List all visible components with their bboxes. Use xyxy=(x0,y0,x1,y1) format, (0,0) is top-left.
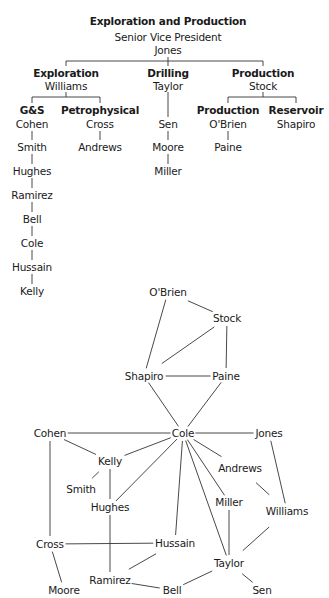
org-person-label: Cross xyxy=(86,118,114,130)
network-edge xyxy=(124,437,171,455)
org-person-label: Paine xyxy=(214,141,241,153)
org-unit-heading: Drilling xyxy=(147,67,189,79)
network-node: Moore xyxy=(47,584,80,596)
org-person-label: Miller xyxy=(154,165,181,177)
org-person-label: Ramirez xyxy=(11,189,52,201)
org-person-label: Moore xyxy=(152,141,183,153)
network-edge xyxy=(65,543,153,544)
network-edge xyxy=(242,574,253,583)
network-edge xyxy=(183,571,212,585)
org-person-label: O'Brien xyxy=(209,118,246,130)
diagram-canvas: Exploration and ProductionSenior Vice Pr… xyxy=(0,0,329,598)
org-unit-heading: Petrophysical xyxy=(61,104,139,116)
network-edge xyxy=(116,439,178,502)
org-unit-heading: G&S xyxy=(20,104,45,116)
org-unit-heading: Exploration and Production xyxy=(90,15,247,27)
org-person-label: Shapiro xyxy=(277,118,315,130)
org-person-label: Cohen xyxy=(16,118,49,130)
network-edge xyxy=(188,382,221,426)
network-node: Hughes xyxy=(90,501,131,513)
network-node: Andrews xyxy=(217,462,263,474)
network-edge xyxy=(271,441,285,503)
org-person-label: Senior Vice President xyxy=(115,31,222,43)
network-node: Sen xyxy=(251,584,272,596)
org-person-label: Jones xyxy=(154,44,181,56)
network-edge xyxy=(146,300,166,369)
org-unit-heading: Production xyxy=(232,67,295,79)
network-edge xyxy=(162,327,215,364)
network-edge xyxy=(92,472,99,478)
network-edge xyxy=(176,441,183,535)
org-person-label: Taylor xyxy=(153,80,183,92)
network-edge xyxy=(52,552,61,583)
org-person-label: Andrews xyxy=(78,141,122,153)
org-unit-heading: Exploration xyxy=(33,67,99,79)
network-node: Stock xyxy=(212,312,242,324)
network-edge xyxy=(226,326,227,368)
org-person-label: Sen xyxy=(158,118,177,130)
org-person-label: Kelly xyxy=(20,285,44,297)
network-node: Hussain xyxy=(154,537,196,549)
network-edge xyxy=(149,383,179,427)
network-node: Williams xyxy=(265,505,309,517)
org-unit-heading: Reservoir xyxy=(269,104,324,116)
network-node: Cross xyxy=(35,538,65,550)
org-person-label: Cole xyxy=(21,237,43,249)
network-node: Jones xyxy=(254,427,283,439)
org-unit-heading: Production xyxy=(197,104,260,116)
network-edge xyxy=(131,583,159,588)
org-person-label: Smith xyxy=(17,141,47,153)
network-node: Cole xyxy=(171,427,195,439)
network-node: Miller xyxy=(214,496,243,508)
network-edge xyxy=(129,554,156,570)
network-edge xyxy=(188,301,213,312)
org-person-label: Hughes xyxy=(13,165,52,177)
network-node: Shapiro xyxy=(124,370,164,382)
network-edge xyxy=(64,440,96,455)
network-node: Smith xyxy=(65,483,97,495)
network-node: O'Brien xyxy=(148,286,187,298)
network-edge xyxy=(256,483,269,495)
org-person-label: Bell xyxy=(23,213,42,225)
network-edge xyxy=(243,527,269,551)
network-node: Ramirez xyxy=(88,574,131,586)
org-person-label: Hussain xyxy=(12,261,52,273)
network-node: Taylor xyxy=(213,557,245,569)
network-node: Bell xyxy=(162,584,183,596)
network-node: Paine xyxy=(211,370,240,382)
org-person-label: Williams xyxy=(45,80,87,92)
network-node: Cohen xyxy=(33,427,68,439)
network-node: Kelly xyxy=(97,455,123,467)
network-edge xyxy=(194,439,222,456)
org-person-label: Stock xyxy=(249,80,277,92)
